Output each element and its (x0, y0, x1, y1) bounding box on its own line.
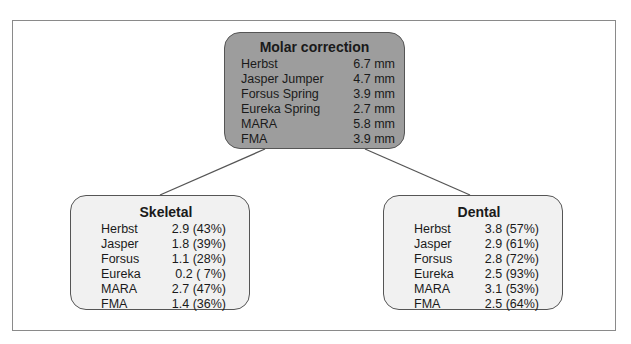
table-row: Jasper1.8 (39%) (101, 237, 226, 252)
row-value: 0.2 ( 7%) (154, 267, 226, 282)
row-label: MARA (241, 117, 343, 132)
row-label: Herbst (414, 222, 467, 237)
row-label: Forsus (414, 252, 467, 267)
row-value: 1.8 (39%) (154, 237, 226, 252)
table-row: Jasper2.9 (61%) (414, 237, 539, 252)
row-value: 2.7 mm (343, 102, 395, 117)
table-row: Forsus2.8 (72%) (414, 252, 539, 267)
row-label: Herbst (241, 57, 343, 72)
table-row: Jasper Jumper4.7 mm (241, 72, 395, 87)
table-row: MARA2.7 (47%) (101, 282, 226, 297)
table-row: FMA1.4 (36%) (101, 297, 226, 312)
table-row: Herbst3.8 (57%) (414, 222, 539, 237)
row-label: Eureka Spring (241, 102, 343, 117)
connector-root-to-skeletal (160, 149, 265, 195)
table-row: MARA3.1 (53%) (414, 282, 539, 297)
row-value: 2.9 (43%) (154, 222, 226, 237)
molar-correction-title: Molar correction (225, 39, 404, 55)
dental-table: Herbst3.8 (57%) Jasper2.9 (61%) Forsus2.… (414, 222, 539, 312)
row-value: 5.8 mm (343, 117, 395, 132)
connector-root-to-dental (365, 149, 470, 195)
skeletal-box: Skeletal Herbst2.9 (43%) Jasper1.8 (39%)… (70, 195, 250, 310)
table-row: Forsus Spring3.9 mm (241, 87, 395, 102)
table-row: FMA3.9 mm (241, 132, 395, 147)
row-value: 2.5 (93%) (467, 267, 539, 282)
table-row: MARA5.8 mm (241, 117, 395, 132)
row-value: 2.7 (47%) (154, 282, 226, 297)
row-value: 2.5 (64%) (467, 297, 539, 312)
row-value: 6.7 mm (343, 57, 395, 72)
row-label: Jasper (414, 237, 467, 252)
molar-correction-table: Herbst6.7 mm Jasper Jumper4.7 mm Forsus … (241, 57, 395, 147)
row-value: 3.1 (53%) (467, 282, 539, 297)
table-row: Forsus1.1 (28%) (101, 252, 226, 267)
row-label: MARA (101, 282, 154, 297)
row-value: 3.9 mm (343, 132, 395, 147)
row-value: 1.4 (36%) (154, 297, 226, 312)
row-label: Eureka (414, 267, 467, 282)
dental-title: Dental (384, 204, 562, 220)
row-label: FMA (101, 297, 154, 312)
row-value: 4.7 mm (343, 72, 395, 87)
row-value: 3.8 (57%) (467, 222, 539, 237)
table-row: Herbst2.9 (43%) (101, 222, 226, 237)
row-label: FMA (414, 297, 467, 312)
molar-correction-box: Molar correction Herbst6.7 mm Jasper Jum… (224, 32, 405, 149)
skeletal-table: Herbst2.9 (43%) Jasper1.8 (39%) Forsus1.… (101, 222, 226, 312)
row-value: 3.9 mm (343, 87, 395, 102)
skeletal-title: Skeletal (71, 204, 249, 220)
row-value: 2.9 (61%) (467, 237, 539, 252)
row-label: Herbst (101, 222, 154, 237)
row-label: FMA (241, 132, 343, 147)
row-label: Eureka (101, 267, 154, 282)
dental-box: Dental Herbst3.8 (57%) Jasper2.9 (61%) F… (383, 195, 563, 310)
table-row: Eureka2.5 (93%) (414, 267, 539, 282)
table-row: Eureka Spring2.7 mm (241, 102, 395, 117)
row-value: 2.8 (72%) (467, 252, 539, 267)
row-label: MARA (414, 282, 467, 297)
table-row: Herbst6.7 mm (241, 57, 395, 72)
row-label: Forsus (101, 252, 154, 267)
row-label: Forsus Spring (241, 87, 343, 102)
row-label: Jasper (101, 237, 154, 252)
table-row: FMA2.5 (64%) (414, 297, 539, 312)
row-value: 1.1 (28%) (154, 252, 226, 267)
row-label: Jasper Jumper (241, 72, 343, 87)
table-row: Eureka0.2 ( 7%) (101, 267, 226, 282)
